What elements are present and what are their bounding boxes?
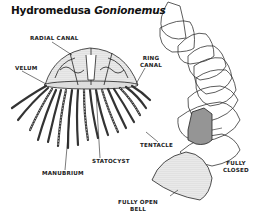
label-radial-canal: RADIAL CANAL (30, 35, 79, 42)
title-genus: Gonionemus (94, 4, 165, 16)
label-velum: VELUM (15, 65, 38, 72)
fully-open-bell (152, 152, 212, 200)
label-ring-canal: RING CANAL (140, 55, 162, 68)
label-fully-closed-line1: FULLY (223, 160, 249, 167)
diagram-artwork (0, 0, 253, 215)
diagram-title: Hydromedusa Gonionemus (11, 4, 166, 16)
label-tentacle: TENTACLE (140, 142, 173, 149)
label-statocyst: STATOCYST (92, 158, 130, 165)
label-ring-canal-line2: CANAL (140, 62, 162, 69)
label-fully-closed-line2: CLOSED (223, 167, 249, 174)
label-fully-open-bell: FULLY OPEN BELL (118, 199, 158, 212)
label-ring-canal-line1: RING (140, 55, 162, 62)
title-prefix: Hydromedusa (11, 4, 94, 16)
medusa-body (44, 48, 138, 89)
label-fully-open-line1: FULLY OPEN (118, 199, 158, 206)
fully-closed-bell (188, 108, 212, 145)
label-fully-open-line2: BELL (118, 206, 158, 213)
label-fully-closed: FULLY CLOSED (223, 160, 249, 173)
label-manubrium: MANUBRIUM (42, 170, 84, 177)
tentacles (12, 86, 150, 148)
